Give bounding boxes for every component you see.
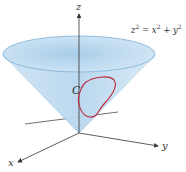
eq-equals: = (139, 25, 152, 35)
eq-plus: + (160, 25, 173, 35)
eq-exp: 2 (178, 23, 182, 30)
curve-c-label: C (72, 85, 80, 96)
surface-equation: z2 = x2 + y2 (131, 26, 182, 35)
y-axis-label: y (162, 141, 168, 151)
y-axis (79, 133, 158, 146)
x-axis (18, 133, 79, 162)
z-axis-label: z (76, 2, 81, 12)
x-axis-label: x (8, 158, 14, 168)
